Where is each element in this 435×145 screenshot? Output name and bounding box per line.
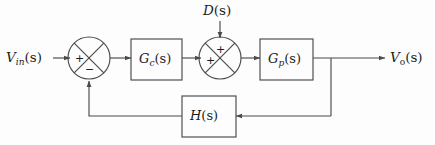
controller-block-label: Gc(s) <box>139 52 171 68</box>
disturbance-signal-base: D <box>203 2 214 18</box>
feedback-block-label: H(s) <box>190 109 218 122</box>
disturbance-junction-left-plus-sign: + <box>206 55 215 66</box>
input-signal-arg: (s) <box>24 49 41 65</box>
input-signal-label: Vin(s) <box>6 51 42 67</box>
block-diagram: Vin(s) D(s) Vo(s) Gc(s) Gp(s) H(s) + − +… <box>0 0 435 145</box>
wire-feedback-to-error-junction <box>89 81 182 116</box>
diagram-wires <box>53 21 385 137</box>
feedback-arg: (s) <box>201 108 218 123</box>
input-signal-base: V <box>6 49 16 65</box>
disturbance-signal-arg: (s) <box>214 2 231 18</box>
output-signal-base: V <box>390 49 400 65</box>
controller-arg: (s) <box>154 51 171 66</box>
plant-arg: (s) <box>284 51 301 66</box>
plant-block-label: Gp(s) <box>268 52 301 68</box>
error-junction-minus-sign: − <box>85 64 94 75</box>
controller-base: G <box>139 51 149 66</box>
output-signal-label: Vo(s) <box>390 51 423 67</box>
disturbance-signal-label: D(s) <box>203 4 231 18</box>
feedback-base: H <box>190 108 201 123</box>
disturbance-junction-top-plus-sign: + <box>216 44 225 55</box>
output-signal-arg: (s) <box>405 49 422 65</box>
error-junction-plus-sign: + <box>75 53 84 64</box>
diagram-canvas <box>0 0 435 145</box>
plant-base: G <box>268 51 278 66</box>
